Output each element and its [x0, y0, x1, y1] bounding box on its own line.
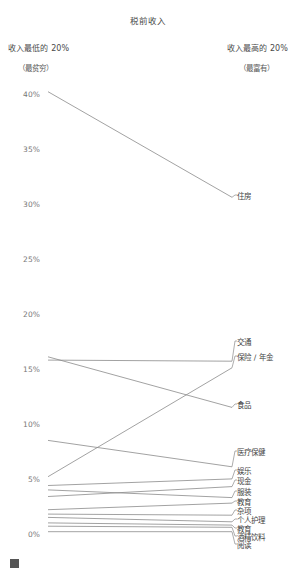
slope-line: [48, 357, 232, 408]
footer-note: [10, 559, 23, 568]
footer-swatch-icon: [10, 559, 19, 568]
series-label-0: 住房: [237, 190, 251, 201]
slope-line: [48, 92, 232, 198]
slope-line: [48, 440, 232, 466]
slope-line: [48, 360, 232, 361]
slope-line: [48, 368, 232, 477]
series-label-3: 食品: [237, 399, 251, 410]
slope-line: [48, 487, 232, 497]
slope-line: [48, 514, 232, 515]
slope-line: [48, 526, 232, 527]
series-label-6: 现金: [237, 475, 251, 486]
series-label-2: 保险 / 年金: [237, 351, 273, 362]
slope-line: [48, 523, 232, 525]
series-label-4: 医疗保健: [237, 446, 265, 457]
series-label-1: 交通: [237, 336, 251, 347]
series-label-13: 阅读: [237, 539, 251, 550]
slope-line: [48, 479, 232, 486]
slope-line: [48, 517, 232, 521]
slope-line: [48, 490, 232, 498]
slope-line: [48, 503, 232, 510]
